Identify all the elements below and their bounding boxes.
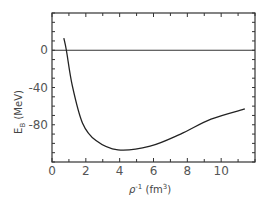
x-tick-label: 8 (184, 164, 192, 178)
x-tick-label: 6 (150, 164, 158, 178)
y-tick-label: 0 (40, 43, 48, 57)
x-axis-label: ρ-1 (fm3) (129, 183, 171, 195)
chart-svg: 02468100-40-80 EB (MeV) ρ-1 (fm3) (0, 0, 264, 199)
tick-labels: 02468100-40-80 (28, 43, 228, 178)
y-axis-label: EB (MeV) (13, 90, 27, 134)
x-tick-label: 4 (116, 164, 124, 178)
x-tick-label: 10 (214, 164, 229, 178)
x-tick-label: 2 (82, 164, 90, 178)
y-tick-label: -40 (28, 81, 48, 95)
y-tick-label: -80 (28, 118, 48, 132)
plot-border (52, 13, 255, 162)
x-tick-label: 0 (48, 164, 56, 178)
binding-energy-curve (64, 38, 245, 150)
axis-ticks (52, 13, 255, 162)
plot-frame (52, 13, 255, 162)
